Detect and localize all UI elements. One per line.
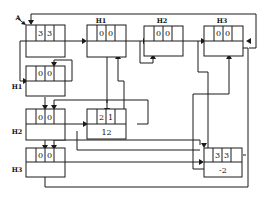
cell-value: 0 — [38, 113, 43, 122]
linked-matrix-diagram: 3 3 A 0 0 H1 0 0 H2 0 0 H3 — [0, 0, 262, 200]
node-label: H3 — [217, 17, 228, 25]
node-mid: 2 1 12 — [87, 109, 126, 139]
node-label: H1 — [96, 17, 107, 25]
arrow-br-left — [199, 159, 204, 165]
cell-value: 0 — [165, 29, 170, 38]
cell-value: 3 — [215, 151, 220, 160]
arrow-h3-right-in — [246, 38, 251, 44]
cell-value: 0 — [47, 113, 52, 122]
cell-value: 3 — [224, 151, 229, 160]
edge-right-loop — [208, 72, 240, 160]
cell-value: 3 — [47, 29, 52, 38]
node-label: H2 — [12, 128, 23, 136]
node-left-h3: 0 0 — [26, 148, 65, 177]
cell-value: 0 — [47, 69, 52, 78]
cell-value: 3 — [38, 29, 43, 38]
edge-h3-stem — [199, 57, 229, 94]
cell-value: 0 — [216, 29, 221, 38]
node-root: 3 3 — [26, 25, 65, 57]
cell-value: 2 — [99, 113, 104, 122]
node-top-h3: 0 0 — [204, 26, 243, 56]
cell-value: 0 — [47, 151, 52, 160]
arrow-br-top — [201, 143, 207, 148]
cell-value: 0 — [99, 29, 104, 38]
node-bottom-right: 3 3 -2 — [204, 148, 242, 177]
cell-value: 0 — [108, 29, 113, 38]
arrow-root-in — [28, 20, 34, 25]
node-left-h1: 0 0 — [26, 66, 65, 96]
edge-left-h2-right — [54, 140, 200, 145]
node-top-h2: 0 0 — [144, 26, 183, 56]
node-label: H3 — [12, 166, 23, 174]
node-label: H2 — [157, 17, 168, 25]
node-label: H1 — [12, 83, 23, 91]
cell-value: 0 — [156, 29, 161, 38]
node-top-h1: 0 0 — [87, 25, 126, 57]
cell-value: 0 — [225, 29, 230, 38]
arrow-h1-in — [82, 38, 87, 44]
node-value: 12 — [101, 128, 111, 137]
edge-h3-down — [193, 94, 204, 169]
node-left-h2: 0 0 — [26, 109, 65, 140]
node-value: -2 — [219, 166, 227, 175]
cell-value: 0 — [38, 69, 43, 78]
edge-root-down-left — [20, 41, 26, 81]
cell-value: 0 — [38, 151, 43, 160]
cell-value: 1 — [108, 113, 113, 122]
